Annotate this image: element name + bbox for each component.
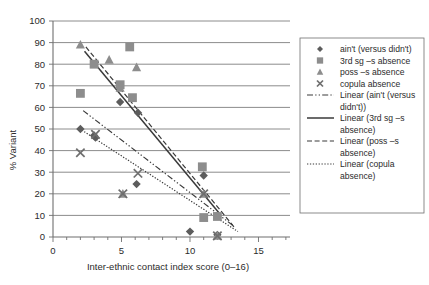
legend-label: ain't (versus didn't) — [340, 44, 412, 54]
legend-item[interactable]: Linear (copulaabsence) — [307, 159, 395, 181]
series-triangle — [76, 40, 222, 240]
legend-marker-triangle — [317, 69, 324, 75]
x-tick-label: 5 — [119, 245, 124, 256]
y-tick-label: 30 — [34, 167, 45, 178]
y-tick-label: 10 — [34, 210, 45, 221]
legend-label: Linear (poss –s — [340, 136, 399, 146]
data-point-cross — [76, 149, 84, 157]
data-point-square — [90, 60, 99, 69]
y-tick-label: 20 — [34, 188, 45, 199]
y-tick-label: 70 — [34, 80, 45, 91]
legend-label-cont: didn't)) — [340, 102, 366, 112]
scatter-plot: 0102030405060708090100 051015 % Variant … — [0, 0, 429, 285]
data-point-diamond — [186, 227, 194, 235]
trendline — [83, 111, 234, 227]
chart-figure: 0102030405060708090100 051015 % Variant … — [0, 0, 429, 285]
x-tick-label: 10 — [185, 245, 196, 256]
legend-label-cont: absence) — [340, 171, 375, 181]
y-tick-labels-group: 0102030405060708090100 — [29, 15, 45, 242]
y-tick-label: 100 — [29, 15, 45, 26]
legend-item[interactable]: Linear (ain't (versusdidn't)) — [307, 90, 415, 112]
data-point-square — [125, 43, 134, 52]
legend: ain't (versus didn't)3rd sg –s absencepo… — [300, 38, 424, 213]
legend-label: Linear (copula — [340, 159, 395, 169]
y-tick-label: 90 — [34, 37, 45, 48]
data-point-diamond — [134, 109, 142, 117]
y-tick-label: 60 — [34, 102, 45, 113]
axes-group — [49, 21, 290, 242]
trendline — [86, 47, 235, 228]
data-points-group — [76, 40, 222, 240]
x-tick-labels-group: 051015 — [50, 245, 263, 256]
legend-label: poss –s absence — [340, 67, 405, 77]
x-tick-label: 15 — [253, 245, 264, 256]
data-point-diamond — [76, 125, 84, 133]
data-point-square — [198, 162, 207, 171]
legend-marker-diamond — [317, 46, 323, 52]
legend-label: 3rd sg –s absence — [340, 56, 410, 66]
legend-label-cont: absence) — [340, 148, 375, 158]
data-point-square — [213, 212, 222, 221]
legend-label: Linear (3rd sg –s — [340, 113, 405, 123]
data-point-diamond — [132, 180, 140, 188]
x-axis-title: Inter-ethnic contact index score (0–16) — [87, 261, 249, 272]
data-point-triangle — [105, 55, 114, 64]
data-point-cross — [134, 169, 142, 177]
data-point-diamond — [116, 98, 124, 106]
legend-item[interactable]: 3rd sg –s absence — [317, 56, 411, 66]
legend-label: copula absence — [340, 79, 400, 89]
legend-item[interactable]: Linear (poss –sabsence) — [307, 136, 399, 158]
legend-marker-square — [317, 57, 323, 63]
legend-item[interactable]: copula absence — [317, 79, 400, 89]
y-tick-label: 0 — [40, 231, 45, 242]
legend-item[interactable]: ain't (versus didn't) — [317, 44, 412, 54]
data-point-square — [128, 93, 137, 102]
legend-label: Linear (ain't (versus — [340, 90, 415, 100]
legend-label-cont: absence) — [340, 125, 375, 135]
y-tick-label: 80 — [34, 59, 45, 70]
trendlines-group — [82, 47, 238, 232]
y-tick-label: 40 — [34, 145, 45, 156]
legend-items-group: ain't (versus didn't)3rd sg –s absencepo… — [307, 44, 415, 181]
legend-item[interactable]: Linear (3rd sg –sabsence) — [307, 113, 405, 135]
data-point-triangle — [76, 40, 85, 49]
y-axis-title: % Variant — [7, 129, 18, 170]
legend-item[interactable]: poss –s absence — [317, 67, 405, 77]
data-point-square — [199, 213, 208, 222]
legend-marker-cross — [317, 81, 323, 87]
y-tick-label: 50 — [34, 123, 45, 134]
x-tick-label: 0 — [50, 245, 55, 256]
data-point-square — [76, 89, 85, 98]
